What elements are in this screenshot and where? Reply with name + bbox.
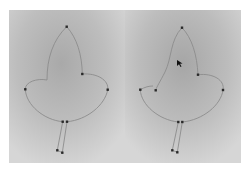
leaf-path-drawing-edited [125, 10, 241, 163]
leaf-path-drawing [9, 10, 125, 163]
photo-panel-after [125, 10, 241, 163]
photo-panel-before [9, 10, 125, 163]
